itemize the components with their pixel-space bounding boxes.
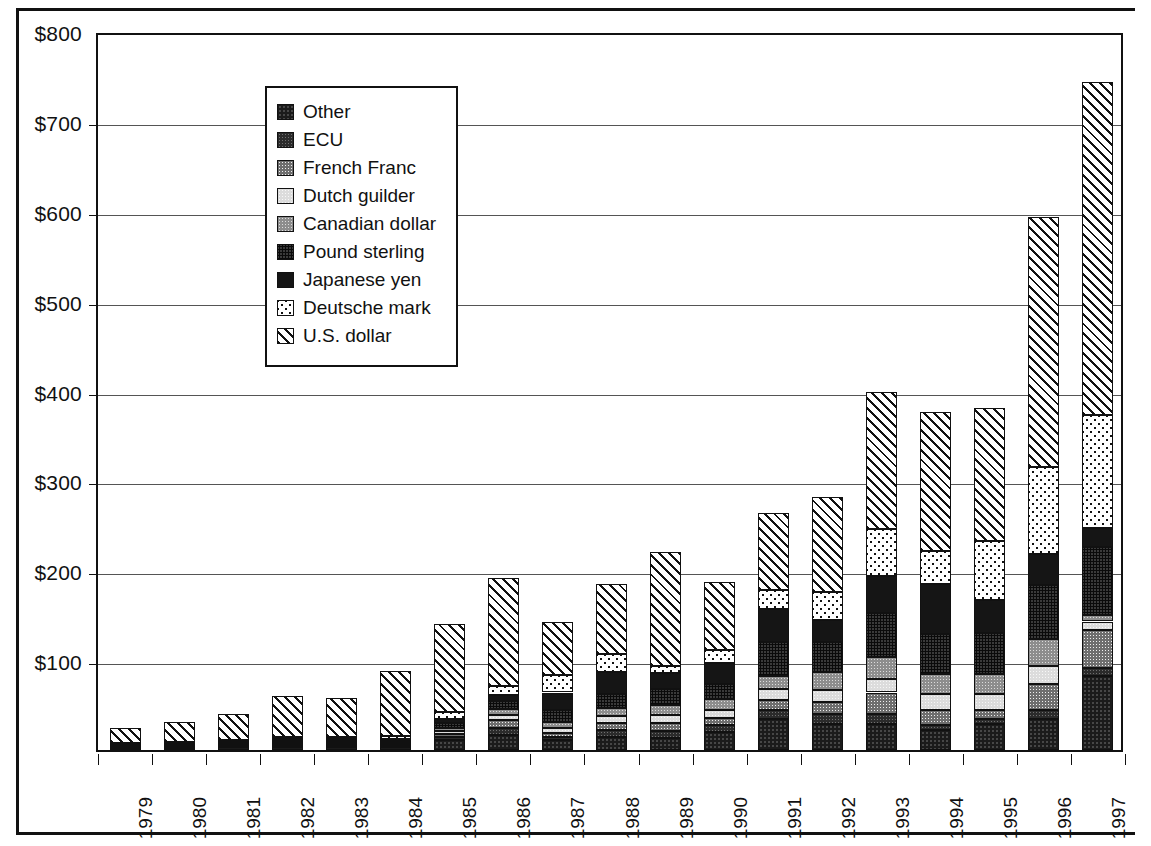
x-tick-1991: [747, 754, 748, 765]
bar-segment-1989-frf: [650, 723, 681, 731]
plot-area: $100$200$300$400$500$600$700$800 1979198…: [96, 33, 1123, 752]
bar-segment-1984-jpy: [380, 739, 411, 741]
x-tick-1985: [422, 754, 423, 765]
x-tick-label-1991: 1991: [784, 797, 806, 839]
bar-segment-1995-gbp: [974, 633, 1005, 673]
x-tick-1980: [152, 754, 153, 765]
bar-segment-1991-cad: [758, 676, 789, 689]
bar-segment-1991-dem: [758, 590, 789, 609]
bar-segment-1986-nlg: [488, 715, 519, 720]
legend-swatch-jpy-icon: [277, 272, 294, 288]
bar-segment-1981-dem: [218, 740, 249, 742]
bar-segment-1993-ecu: [866, 714, 897, 724]
bar-segment-1993-nlg: [866, 679, 897, 692]
bar-1987[interactable]: [542, 621, 573, 750]
bar-1980[interactable]: [164, 722, 195, 750]
legend-item-ecu[interactable]: ECU: [277, 126, 456, 154]
x-tick-1979: [98, 754, 99, 765]
legend-label-jpy: Japanese yen: [303, 269, 421, 291]
bar-1993[interactable]: [866, 392, 897, 750]
gridline-300: [98, 484, 1121, 485]
bar-1983[interactable]: [326, 698, 357, 750]
bar-segment-1991-usd: [758, 513, 789, 590]
bar-segment-1987-dem: [542, 675, 573, 693]
bar-segment-1986-usd: [488, 578, 519, 686]
bar-1997[interactable]: [1082, 82, 1113, 750]
x-tick-label-1994: 1994: [946, 797, 968, 839]
bar-segment-1990-ecu: [704, 725, 735, 732]
bar-segment-1985-nlg: [434, 731, 465, 734]
bar-segment-1995-jpy: [974, 600, 1005, 633]
bar-segment-1984-oth: [380, 747, 411, 750]
x-tick-label-1985: 1985: [459, 797, 481, 839]
bar-1984[interactable]: [380, 671, 411, 750]
legend-item-frf[interactable]: French Franc: [277, 154, 456, 182]
x-tick-1997: [1071, 754, 1072, 765]
bar-1994[interactable]: [920, 412, 951, 750]
bar-segment-1988-usd: [596, 584, 627, 654]
y-tick-label-800: $800: [0, 22, 82, 46]
bar-segment-1997-frf: [1082, 630, 1113, 669]
legend-item-jpy[interactable]: Japanese yen: [277, 266, 456, 294]
legend-item-cad[interactable]: Canadian dollar: [277, 210, 456, 238]
bar-1989[interactable]: [650, 552, 681, 750]
x-tick-1992: [801, 754, 802, 765]
bar-1988[interactable]: [596, 584, 627, 750]
bar-segment-1994-gbp: [920, 634, 951, 674]
bar-segment-1986-dem: [488, 686, 519, 695]
page-rule-top: [16, 8, 1135, 11]
y-tick-400: [89, 395, 98, 396]
bar-segment-1994-dem: [920, 551, 951, 583]
y-tick-500: [89, 305, 98, 306]
bar-segment-1997-oth: [1082, 676, 1113, 750]
bar-segment-1985-usd: [434, 624, 465, 712]
bar-segment-1996-gbp: [1028, 585, 1059, 640]
bar-segment-1991-frf: [758, 700, 789, 710]
y-tick-label-600: $600: [0, 202, 82, 226]
bar-segment-1987-jpy: [542, 693, 573, 711]
bar-segment-1988-ecu: [596, 730, 627, 737]
legend: OtherECUFrench FrancDutch guilderCanadia…: [265, 86, 458, 367]
bar-1982[interactable]: [272, 696, 303, 750]
bar-segment-1992-jpy: [812, 620, 843, 642]
y-tick-100: [89, 664, 98, 665]
legend-item-nlg[interactable]: Dutch guilder: [277, 182, 456, 210]
bar-segment-1987-cad: [542, 722, 573, 728]
bar-1990[interactable]: [704, 582, 735, 750]
legend-item-dem[interactable]: Deutsche mark: [277, 294, 456, 322]
bar-segment-1990-usd: [704, 582, 735, 650]
x-tick-label-1984: 1984: [405, 797, 427, 839]
x-tick-label-1983: 1983: [351, 797, 373, 839]
bar-1995[interactable]: [974, 408, 1005, 750]
bar-segment-1995-ecu: [974, 719, 1005, 724]
legend-item-oth[interactable]: Other: [277, 98, 456, 126]
bar-segment-1990-frf: [704, 718, 735, 725]
bar-segment-1983-usd: [326, 698, 357, 737]
x-tick-1995: [963, 754, 964, 765]
bar-1981[interactable]: [218, 714, 249, 750]
bar-1985[interactable]: [434, 624, 465, 750]
bar-1986[interactable]: [488, 578, 519, 750]
x-tick-end: [1125, 754, 1126, 765]
bar-segment-1997-ecu: [1082, 668, 1113, 676]
bar-1979[interactable]: [110, 728, 141, 750]
x-tick-label-1997: 1997: [1108, 797, 1130, 839]
bar-segment-1989-nlg: [650, 715, 681, 723]
bar-segment-1995-cad: [974, 674, 1005, 695]
bar-segment-1985-cad: [434, 728, 465, 732]
bar-1992[interactable]: [812, 497, 843, 750]
bar-segment-1982-usd: [272, 696, 303, 736]
x-tick-1981: [206, 754, 207, 765]
bar-segment-1989-gbp: [650, 689, 681, 705]
legend-item-usd[interactable]: U.S. dollar: [277, 322, 456, 350]
x-tick-1987: [530, 754, 531, 765]
bar-segment-1987-usd: [542, 622, 573, 675]
bar-segment-1982-oth: [272, 747, 303, 750]
y-tick-label-200: $200: [0, 561, 82, 585]
legend-item-gbp[interactable]: Pound sterling: [277, 238, 456, 266]
bar-1996[interactable]: [1028, 217, 1059, 750]
bar-segment-1996-ecu: [1028, 710, 1059, 718]
gridline-500: [98, 305, 1121, 306]
bar-1991[interactable]: [758, 513, 789, 750]
x-tick-1996: [1017, 754, 1018, 765]
